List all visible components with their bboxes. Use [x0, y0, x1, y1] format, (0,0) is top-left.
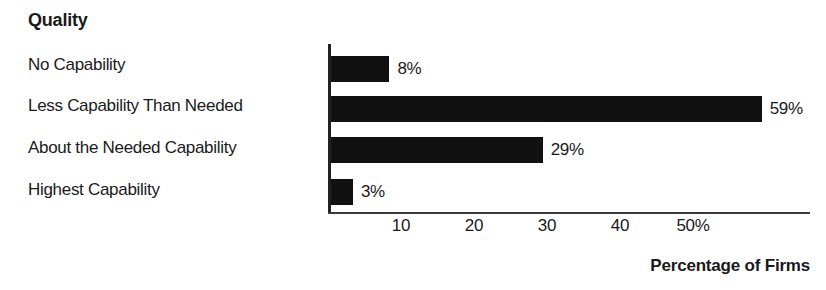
bar-chart: Quality No Capability Less Capability Th…: [0, 0, 826, 290]
bar-value-about-the-needed-capability: 29%: [551, 140, 584, 160]
category-label-no-capability: No Capability: [28, 56, 125, 73]
x-tick-50: 50%: [676, 216, 709, 236]
bar-value-no-capability: 8%: [397, 59, 421, 79]
bar-no-capability[interactable]: [331, 56, 389, 82]
x-axis-line: [328, 212, 810, 214]
x-tick-20: 20: [465, 216, 483, 236]
plot-area: 8% 59% 29% 3%: [328, 44, 810, 212]
chart-title: Quality: [28, 10, 88, 31]
category-label-highest-capability: Highest Capability: [28, 181, 160, 198]
bar-less-capability-than-needed[interactable]: [331, 96, 762, 122]
x-axis-tick-labels: 10 20 30 40 50%: [328, 216, 810, 240]
x-axis-title: Percentage of Firms: [650, 256, 810, 276]
bar-value-less-capability-than-needed: 59%: [770, 99, 803, 119]
bar-about-the-needed-capability[interactable]: [331, 137, 543, 163]
x-tick-30: 30: [538, 216, 556, 236]
x-tick-40: 40: [611, 216, 629, 236]
category-label-less-capability-than-needed: Less Capability Than Needed: [28, 97, 243, 114]
x-tick-10: 10: [392, 216, 410, 236]
category-axis-labels: No Capability Less Capability Than Neede…: [28, 44, 324, 212]
bar-value-highest-capability: 3%: [361, 182, 385, 202]
category-label-about-the-needed-capability: About the Needed Capability: [28, 139, 236, 156]
bar-highest-capability[interactable]: [331, 179, 353, 205]
